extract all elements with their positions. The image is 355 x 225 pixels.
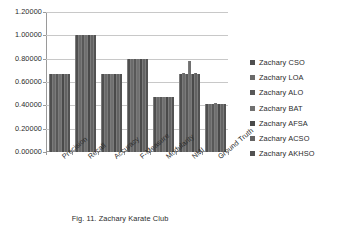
bar-group — [72, 12, 98, 152]
bar — [145, 59, 148, 152]
bar-group — [150, 12, 176, 152]
legend-item[interactable]: Zachary ACSO — [250, 131, 354, 146]
chart-figure: 0.000000.200000.400000.600000.800001.000… — [0, 0, 355, 225]
y-axis-labels: 0.000000.200000.400000.600000.800001.000… — [0, 12, 42, 152]
y-axis-tick-label: 0.20000 — [15, 125, 42, 133]
bar — [197, 74, 200, 152]
bar-group — [176, 12, 202, 152]
bar-group — [46, 12, 72, 152]
y-axis-tick-label: 1.00000 — [15, 31, 42, 39]
plot-area — [46, 12, 228, 152]
legend-item-label: Zachary CSO — [259, 58, 305, 67]
y-axis-tick-label: 0.00000 — [15, 148, 42, 156]
legend-swatch-icon — [250, 75, 255, 80]
chart-legend: Zachary CSOZachary LOAZachary ALOZachary… — [250, 55, 354, 161]
legend-swatch-icon — [250, 151, 255, 156]
legend-item-label: Zachary LOA — [259, 73, 304, 82]
bar — [171, 97, 174, 152]
legend-item[interactable]: Zachary AKHSO — [250, 146, 354, 161]
legend-item-label: Zachary BAT — [259, 104, 303, 113]
bar — [93, 35, 96, 152]
y-axis-tick-label: 0.80000 — [15, 55, 42, 63]
legend-item-label: Zachary ALO — [259, 88, 303, 97]
y-axis-tick-label: 0.40000 — [15, 101, 42, 109]
bar — [67, 74, 70, 152]
figure-caption: Fig. 11. Zachary Karate Club — [0, 214, 240, 223]
legend-swatch-icon — [250, 90, 255, 95]
bar — [119, 74, 122, 152]
legend-item[interactable]: Zachary LOA — [250, 70, 354, 85]
legend-item-label: Zachary AFSA — [259, 119, 308, 128]
y-axis-tick-label: 0.60000 — [15, 78, 42, 86]
legend-swatch-icon — [250, 106, 255, 111]
bar-group — [98, 12, 124, 152]
legend-item[interactable]: Zachary AFSA — [250, 116, 354, 131]
bar-group — [124, 12, 150, 152]
legend-item[interactable]: Zachary BAT — [250, 101, 354, 116]
legend-swatch-icon — [250, 121, 255, 126]
y-axis-tick-label: 1.20000 — [15, 8, 42, 16]
legend-swatch-icon — [250, 60, 255, 65]
legend-item[interactable]: Zachary CSO — [250, 55, 354, 70]
legend-swatch-icon — [250, 136, 255, 141]
bar-group — [202, 12, 228, 152]
legend-item[interactable]: Zachary ALO — [250, 85, 354, 100]
x-axis-labels: PrecisionRecallAccuracyF-MeasureModulari… — [46, 154, 228, 206]
legend-item-label: Zachary AKHSO — [259, 149, 315, 158]
legend-item-label: Zachary ACSO — [259, 134, 310, 143]
